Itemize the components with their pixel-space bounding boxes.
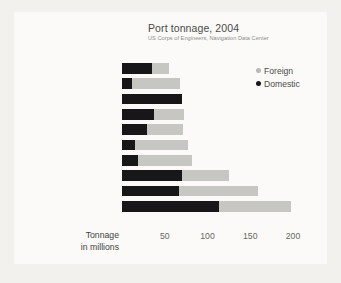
- bar-segment-domestic[interactable]: [122, 155, 138, 166]
- x-axis-caption-line-1: Tonnage: [34, 230, 119, 242]
- stacked-bar[interactable]: [122, 94, 182, 105]
- bar-segment-domestic[interactable]: [122, 109, 154, 120]
- bar-segment-foreign[interactable]: [179, 186, 258, 197]
- x-tick-label: 50: [160, 231, 170, 241]
- stacked-bar[interactable]: [122, 124, 183, 135]
- bar-segment-foreign[interactable]: [152, 63, 169, 74]
- bar-segment-domestic[interactable]: [122, 78, 132, 89]
- x-tick-label: 100: [200, 231, 215, 241]
- bar-segment-domestic[interactable]: [122, 94, 182, 105]
- stacked-bar[interactable]: [122, 186, 258, 197]
- stacked-bar[interactable]: [122, 201, 291, 212]
- bar-segment-domestic[interactable]: [122, 201, 219, 212]
- stacked-bar[interactable]: [122, 78, 180, 89]
- bar-segment-foreign[interactable]: [219, 201, 292, 212]
- stacked-bar[interactable]: [122, 155, 192, 166]
- bar-segment-foreign[interactable]: [138, 155, 192, 166]
- x-tick-label: 150: [243, 231, 258, 241]
- bar-segment-foreign[interactable]: [154, 109, 183, 120]
- stacked-bar[interactable]: [122, 140, 188, 151]
- x-axis-caption: Tonnage in millions: [34, 230, 119, 253]
- bar-segment-domestic[interactable]: [122, 63, 152, 74]
- x-axis-caption-line-2: in millions: [34, 242, 119, 254]
- bar-segment-foreign[interactable]: [135, 140, 188, 151]
- bar-segment-domestic[interactable]: [122, 124, 147, 135]
- bar-segment-domestic[interactable]: [122, 186, 179, 197]
- bar-segment-foreign[interactable]: [132, 78, 180, 89]
- bar-segment-foreign[interactable]: [147, 124, 183, 135]
- x-tick-label: 200: [286, 231, 301, 241]
- stacked-bar[interactable]: [122, 170, 229, 181]
- stacked-bar[interactable]: [122, 63, 169, 74]
- bar-segment-foreign[interactable]: [182, 170, 229, 181]
- bar-segment-domestic[interactable]: [122, 170, 182, 181]
- bar-segment-domestic[interactable]: [122, 140, 135, 151]
- stacked-bar[interactable]: [122, 109, 184, 120]
- chart-figure: Port tonnage, 2004 US Corps of Engineers…: [0, 0, 341, 283]
